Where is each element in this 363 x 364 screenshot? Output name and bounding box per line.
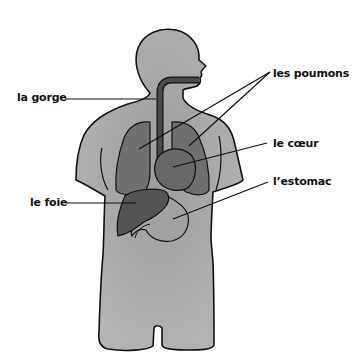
label-poumons: les poumons (273, 67, 349, 80)
label-estomac: l’estomac (273, 175, 331, 188)
label-gorge: la gorge (17, 91, 67, 104)
label-coeur: le cœur (273, 137, 318, 150)
label-foie: le foie (30, 196, 67, 209)
heart (155, 149, 196, 191)
